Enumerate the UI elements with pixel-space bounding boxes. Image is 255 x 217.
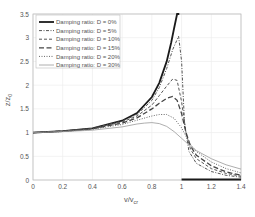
y-tick-label: 2.5 [20,58,29,65]
x-tick-label: 0.6 [118,183,127,190]
series-line-3 [33,97,241,176]
y-tick-label: 0 [25,177,29,184]
y-tick-label: 0.5 [20,153,29,160]
x-tick-label: 0.4 [88,183,97,190]
x-tick-label: 0.2 [58,183,67,190]
y-axis-label: z/z0 [3,94,13,107]
y-axis-ticks: 00.511.522.533.5 [20,11,29,184]
legend-label: Damping ratio: D = 0% [56,19,117,25]
legend: Damping ratio: D = 0%Damping ratio: D = … [36,15,121,68]
legend-label: Damping ratio: D = 30% [56,62,121,68]
y-tick-label: 3 [25,34,29,41]
legend-label: Damping ratio: D = 15% [56,45,121,51]
series-line-5 [33,123,241,170]
y-tick-label: 3.5 [20,11,29,18]
legend-label: Damping ratio: D = 5% [56,28,117,34]
chart: 00.511.522.533.5 00.20.40.60.811.21.4 v/… [0,0,255,217]
x-tick-label: 1.2 [207,183,216,190]
y-tick-label: 2 [25,82,29,89]
x-tick-label: 0.8 [147,183,156,190]
legend-label: Damping ratio: D = 20% [56,54,121,60]
x-axis-ticks: 00.20.40.60.811.21.4 [31,183,246,190]
y-tick-label: 1.5 [20,105,29,112]
y-tick-label: 1 [25,129,29,136]
x-axis-label-sub: cr [134,199,139,205]
x-tick-label: 1 [180,183,184,190]
x-tick-label: 1.4 [236,183,245,190]
x-tick-label: 0 [31,183,35,190]
x-axis-label: v/vcr [124,195,138,205]
y-axis-label-sub: 0 [7,94,13,97]
legend-label: Damping ratio: D = 10% [56,36,121,42]
series-line-2 [33,79,241,176]
